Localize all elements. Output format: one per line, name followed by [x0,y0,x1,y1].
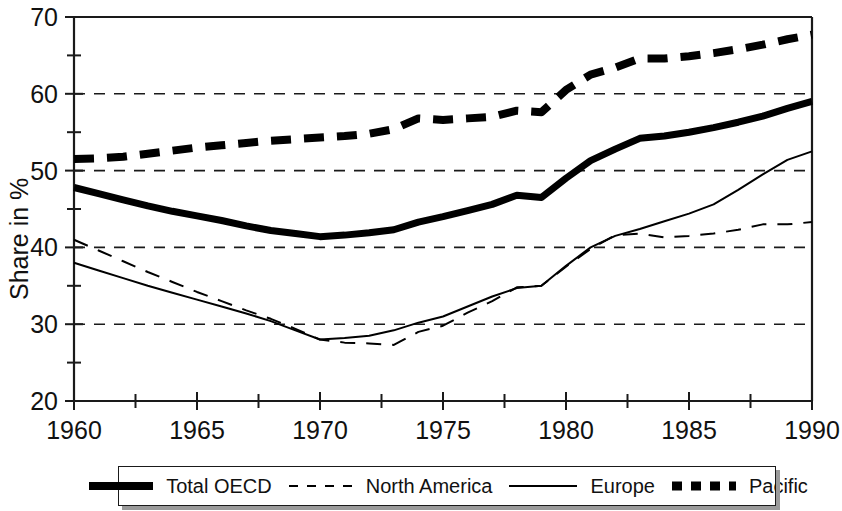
series-line-pacific [74,35,812,159]
legend-label: Total OECD [166,475,272,498]
y-tick-label-40: 40 [30,233,58,261]
y-tick-label-20: 20 [30,387,58,415]
x-tick-label-1975: 1975 [415,416,471,444]
thin-solid-line-swatch [506,477,580,495]
chart-canvas: 203040506070 196019651970197519801985199… [0,0,842,460]
x-tick-label-1965: 1965 [169,416,225,444]
legend-label: North America [366,475,493,498]
y-tick-labels-group: 203040506070 [30,3,58,415]
x-tick-label-1990: 1990 [784,416,840,444]
y-tick-label-50: 50 [30,157,58,185]
series-line-north-america [74,222,812,345]
legend-entry-europe[interactable]: Europe [506,475,655,498]
x-tick-labels-group: 1960196519701975198019851990 [46,416,840,444]
legend-entry-total-oecd[interactable]: Total OECD [86,475,272,498]
x-tick-label-1970: 1970 [292,416,348,444]
thick-solid-line-swatch [86,477,156,495]
y-tick-label-30: 30 [30,310,58,338]
legend-shadow-bottom [122,506,780,510]
legend-label: Europe [590,475,655,498]
line-chart-figure: 203040506070 196019651970197519801985199… [0,0,842,511]
y-axis-label: Share in % [5,178,33,300]
x-tick-label-1980: 1980 [538,416,594,444]
legend-entry-north-america[interactable]: North America [286,475,493,498]
thick-dashed-squares-swatch [669,477,739,495]
legend-shadow-right [776,470,780,510]
data-series-group [74,35,812,345]
dashed-line-swatch [286,477,356,495]
chart-legend: Total OECDNorth AmericaEuropePacific [118,466,776,506]
x-tick-label-1985: 1985 [661,416,717,444]
y-tick-label-60: 60 [30,80,58,108]
legend-entry-pacific[interactable]: Pacific [669,475,808,498]
x-tick-label-1960: 1960 [46,416,102,444]
y-tick-label-70: 70 [30,3,58,31]
series-line-europe [74,151,812,339]
